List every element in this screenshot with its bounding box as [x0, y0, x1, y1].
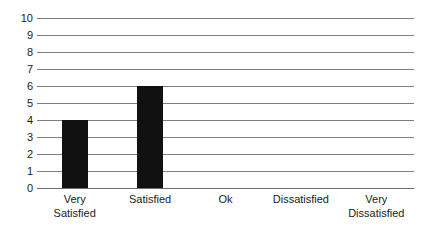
x-axis-baseline [37, 188, 414, 189]
y-axis: 109876543210 [0, 0, 33, 232]
gridline [37, 137, 414, 138]
y-tick-label: 7 [0, 64, 33, 75]
bar-chart: 109876543210 VerySatisfiedSatisfiedOkDis… [0, 0, 432, 232]
x-tick-label-line: Dissatisfied [263, 192, 338, 206]
bar [137, 86, 163, 188]
x-tick-label-line: Ok [188, 192, 263, 206]
gridline [37, 86, 414, 87]
bar [62, 120, 88, 188]
y-tick-label: 6 [0, 81, 33, 92]
y-tick-label: 8 [0, 47, 33, 58]
gridline [37, 120, 414, 121]
gridline [37, 18, 414, 19]
plot-area [37, 18, 414, 188]
y-tick-label: 9 [0, 30, 33, 41]
x-axis: VerySatisfiedSatisfiedOkDissatisfiedVery… [37, 192, 414, 232]
y-tick-label: 2 [0, 149, 33, 160]
x-tick-label-line: Satisfied [112, 192, 187, 206]
y-tick-label: 4 [0, 115, 33, 126]
x-tick-label: Ok [188, 192, 263, 206]
x-tick-label-line: Satisfied [37, 206, 112, 220]
gridline [37, 103, 414, 104]
x-tick-label-line: Dissatisfied [339, 206, 414, 220]
x-tick-label: Dissatisfied [263, 192, 338, 206]
x-tick-label: VeryDissatisfied [339, 192, 414, 220]
gridline [37, 35, 414, 36]
gridline [37, 69, 414, 70]
y-tick-label: 0 [0, 183, 33, 194]
gridline [37, 52, 414, 53]
gridline [37, 171, 414, 172]
x-tick-label: VerySatisfied [37, 192, 112, 220]
gridline [37, 154, 414, 155]
x-tick-label-line: Very [37, 192, 112, 206]
y-tick-label: 10 [0, 13, 33, 24]
y-tick-label: 1 [0, 166, 33, 177]
x-tick-label: Satisfied [112, 192, 187, 206]
y-tick-label: 3 [0, 132, 33, 143]
y-tick-label: 5 [0, 98, 33, 109]
x-tick-label-line: Very [339, 192, 414, 206]
